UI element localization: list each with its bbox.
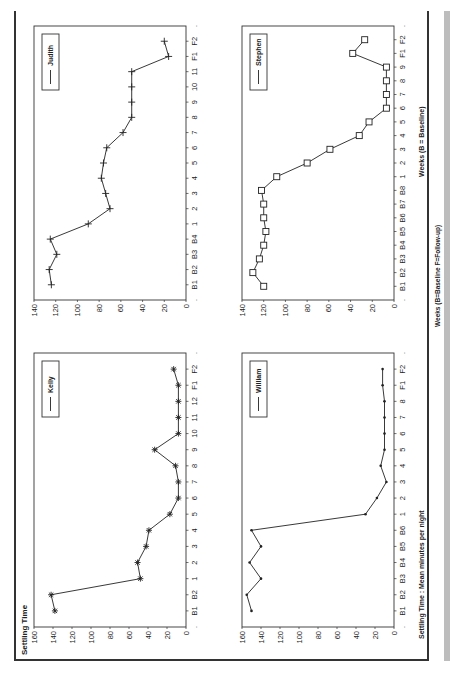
svg-text:F1: F1 (190, 381, 199, 390)
svg-text:B6: B6 (398, 213, 407, 222)
svg-text:120: 120 (259, 304, 268, 317)
svg-text:B2: B2 (398, 590, 407, 599)
svg-text:9: 9 (398, 65, 407, 69)
svg-text:7: 7 (398, 415, 407, 419)
svg-text:B8: B8 (398, 186, 407, 195)
svg-text:40: 40 (346, 304, 355, 312)
svg-text:5: 5 (398, 120, 407, 124)
svg-text:140: 140 (49, 631, 58, 644)
svg-text:1: 1 (190, 577, 199, 581)
svg-text:B6: B6 (398, 526, 407, 535)
svg-text:4: 4 (398, 464, 407, 468)
x-axis-caption-footer: Weeks (B=Baseline F=Follow-up) (434, 225, 441, 327)
svg-text:F1: F1 (190, 52, 199, 61)
svg-text:100: 100 (73, 304, 82, 317)
svg-text:160: 160 (238, 631, 247, 644)
svg-text:3: 3 (398, 147, 407, 151)
svg-text:4: 4 (190, 528, 199, 532)
svg-text:5: 5 (190, 512, 199, 516)
svg-text:140: 140 (257, 631, 266, 644)
svg-text:.: . (191, 352, 198, 354)
svg-text:1: 1 (398, 175, 407, 179)
svg-text:F2: F2 (398, 35, 407, 44)
svg-text:2: 2 (190, 560, 199, 564)
chart-judith: 020406080100120140B1B2B3B41234567891011F… (28, 18, 208, 330)
svg-text:0: 0 (182, 304, 191, 308)
svg-text:0: 0 (390, 631, 399, 635)
svg-text:B2: B2 (190, 590, 199, 599)
svg-text:120: 120 (276, 631, 285, 644)
svg-text:100: 100 (87, 631, 96, 644)
svg-text:100: 100 (281, 304, 290, 317)
svg-text:8: 8 (190, 115, 199, 119)
svg-text:160: 160 (30, 631, 39, 644)
svg-text:.: . (399, 299, 406, 301)
svg-text:B4: B4 (398, 558, 407, 567)
svg-text:100: 100 (295, 631, 304, 644)
svg-text:20: 20 (160, 304, 169, 312)
page-edge-shadow (444, 11, 450, 661)
chart-kelly: 020406080100120140160B1B2123456789101112… (28, 345, 208, 657)
svg-text:2: 2 (190, 207, 199, 211)
svg-text:11: 11 (190, 68, 199, 76)
svg-text:3: 3 (398, 480, 407, 484)
svg-text:11: 11 (190, 414, 199, 422)
svg-text:B4: B4 (398, 241, 407, 250)
svg-text:F1: F1 (398, 381, 407, 390)
svg-text:60: 60 (333, 631, 342, 639)
svg-text:8: 8 (398, 79, 407, 83)
svg-text:B1: B1 (190, 606, 199, 615)
svg-text:40: 40 (138, 304, 147, 312)
x-axis-caption-main: Weeks (B = Baseline) (418, 107, 425, 178)
svg-text:Kelly: Kelly (47, 376, 55, 393)
svg-text:60: 60 (125, 631, 134, 639)
svg-text:8: 8 (398, 399, 407, 403)
svg-text:7: 7 (398, 92, 407, 96)
svg-text:1: 1 (190, 222, 199, 226)
svg-text:F2: F2 (190, 37, 199, 46)
svg-text:B5: B5 (398, 542, 407, 551)
svg-text:F1: F1 (398, 49, 407, 58)
svg-text:6: 6 (398, 432, 407, 436)
svg-text:B2: B2 (398, 268, 407, 277)
svg-text:.: . (399, 352, 406, 354)
svg-text:80: 80 (106, 631, 115, 639)
rotated-page: Settling Time 020406080100120140160B1B21… (0, 0, 461, 675)
svg-text:80: 80 (95, 304, 104, 312)
svg-text:40: 40 (144, 631, 153, 639)
svg-text:William: William (255, 369, 262, 393)
svg-text:120: 120 (68, 631, 77, 644)
svg-text:Stephen: Stephen (255, 38, 263, 66)
svg-text:6: 6 (398, 106, 407, 110)
svg-text:6: 6 (190, 146, 199, 150)
svg-text:Judith: Judith (47, 45, 54, 66)
svg-text:6: 6 (190, 496, 199, 500)
svg-text:5: 5 (398, 448, 407, 452)
y-axis-caption: Settling Time : Mean minutes per night (418, 510, 425, 639)
svg-text:B7: B7 (398, 200, 407, 209)
svg-text:3: 3 (190, 544, 199, 548)
svg-text:0: 0 (182, 631, 191, 635)
svg-text:B5: B5 (398, 227, 407, 236)
svg-text:3: 3 (190, 191, 199, 195)
svg-text:B3: B3 (190, 250, 199, 259)
svg-text:2: 2 (398, 161, 407, 165)
svg-text:B3: B3 (398, 574, 407, 583)
chart-william: 020406080100120140160B1B2B3B4B5B61234567… (236, 345, 416, 657)
svg-text:B2: B2 (190, 265, 199, 274)
svg-text:140: 140 (238, 304, 247, 317)
svg-text:9: 9 (190, 448, 199, 452)
svg-text:B4: B4 (190, 235, 199, 244)
svg-text:140: 140 (30, 304, 39, 317)
svg-text:F2: F2 (190, 365, 199, 374)
svg-text:20: 20 (368, 304, 377, 312)
chart-stephen: 020406080100120140B1B2B3B4B5B6B7B8123456… (236, 18, 416, 330)
svg-text:8: 8 (190, 464, 199, 468)
svg-text:.: . (399, 25, 406, 27)
svg-text:.: . (191, 25, 198, 27)
svg-text:80: 80 (303, 304, 312, 312)
svg-text:12: 12 (190, 397, 199, 405)
svg-text:5: 5 (190, 161, 199, 165)
svg-text:B1: B1 (398, 282, 407, 291)
svg-text:B1: B1 (398, 606, 407, 615)
